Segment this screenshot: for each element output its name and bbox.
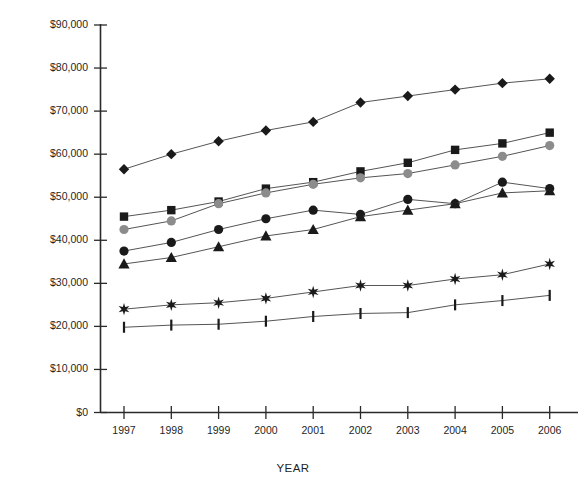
marker-star xyxy=(544,258,555,270)
marker-square xyxy=(498,139,506,147)
marker-circle-gray xyxy=(119,225,128,234)
marker-diamond xyxy=(308,117,318,127)
marker-diamond xyxy=(213,136,223,146)
marker-circle-gray xyxy=(167,216,176,225)
marker-diamond xyxy=(403,91,413,101)
marker-circle-gray xyxy=(309,180,318,189)
marker-circle-gray xyxy=(451,160,460,169)
marker-square xyxy=(120,212,128,220)
series-line xyxy=(124,295,550,327)
marker-diamond xyxy=(166,149,176,159)
marker-square xyxy=(451,146,459,154)
marker-diamond xyxy=(497,78,507,88)
series-black-circle xyxy=(119,178,554,256)
marker-circle xyxy=(403,195,412,204)
marker-circle xyxy=(167,238,176,247)
marker-diamond xyxy=(355,97,365,107)
marker-bar xyxy=(501,295,503,306)
series-line xyxy=(124,182,550,251)
marker-circle-gray xyxy=(545,141,554,150)
marker-diamond xyxy=(261,125,271,135)
series-gray-circle xyxy=(119,141,554,234)
marker-diamond xyxy=(450,84,460,94)
series-line xyxy=(124,146,550,230)
marker-bar xyxy=(265,316,267,327)
marker-square xyxy=(546,128,554,136)
series-square xyxy=(120,128,554,220)
marker-circle-gray xyxy=(261,188,270,197)
marker-bar xyxy=(454,299,456,310)
marker-circle-gray xyxy=(403,169,412,178)
marker-bar xyxy=(312,311,314,322)
series-triangle xyxy=(118,185,555,268)
marker-bar xyxy=(549,290,551,301)
series-diamond xyxy=(119,74,555,175)
marker-square xyxy=(404,159,412,167)
series-line xyxy=(124,191,550,264)
marker-circle-gray xyxy=(498,152,507,161)
marker-circle xyxy=(261,214,270,223)
marker-bar xyxy=(407,307,409,318)
marker-bar xyxy=(218,319,220,330)
series-line xyxy=(124,79,550,169)
marker-bar xyxy=(359,308,361,319)
marker-diamond xyxy=(545,74,555,84)
marker-diamond xyxy=(119,164,129,174)
marker-triangle xyxy=(308,224,319,234)
marker-bar xyxy=(170,320,172,331)
series-tick xyxy=(123,290,551,333)
plot-area xyxy=(0,0,586,497)
marker-circle xyxy=(498,178,507,187)
series-star xyxy=(119,258,555,316)
marker-bar xyxy=(123,322,125,333)
marker-star xyxy=(308,286,319,298)
marker-circle-gray xyxy=(356,173,365,182)
line-chart: ANNUAL COMPENSATION YEAR $0$10,000$20,00… xyxy=(0,0,586,497)
series-line xyxy=(124,133,550,217)
marker-circle xyxy=(119,246,128,255)
marker-circle-gray xyxy=(214,199,223,208)
marker-circle xyxy=(214,225,223,234)
data-series-group xyxy=(118,74,555,333)
marker-circle xyxy=(309,206,318,215)
marker-square xyxy=(167,206,175,214)
